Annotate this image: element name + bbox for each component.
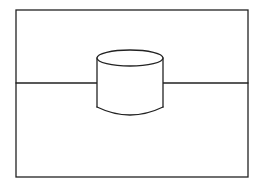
diagram-svg <box>0 0 262 189</box>
cylinder-shape <box>97 50 163 115</box>
cylinder-body-bottom <box>97 107 163 115</box>
diagram-canvas <box>0 0 262 189</box>
cylinder-top-ellipse <box>97 50 163 66</box>
